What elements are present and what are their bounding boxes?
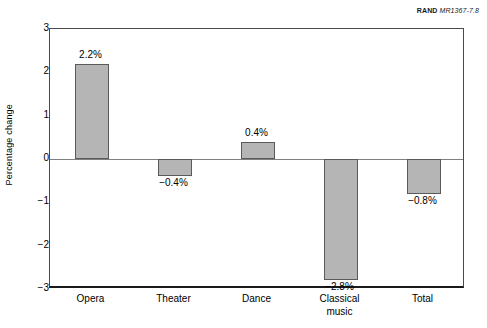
source-note-mark: RAND <box>417 7 438 14</box>
bar <box>407 159 441 194</box>
plot-area <box>49 28 464 288</box>
x-axis-category-line: Theater <box>136 292 212 305</box>
y-axis-tick-label: 3 <box>26 22 49 34</box>
y-axis-tick-label: −3 <box>26 282 49 294</box>
bar-value-label: −0.4% <box>144 177 204 189</box>
y-axis-tick-label: 1 <box>26 109 49 121</box>
x-axis-category-line: Opera <box>53 292 129 305</box>
y-axis-tick-label: 0 <box>26 152 49 164</box>
x-axis-category-label: Theater <box>136 292 212 305</box>
bar <box>75 64 109 159</box>
source-note-document: MR1367-7.8 <box>439 7 479 14</box>
x-axis-category-line: Classical <box>302 292 378 305</box>
x-axis-category-label: Classicalmusic <box>302 292 378 318</box>
x-axis-category-label: Opera <box>53 292 129 305</box>
x-axis-category-line: music <box>302 305 378 318</box>
bar-chart-figure: RANDMR1367-7.8 Percentage change 3210−1−… <box>0 0 487 328</box>
bar <box>158 159 192 176</box>
bar-value-label: −0.8% <box>393 195 453 207</box>
x-axis-category-label: Total <box>385 292 461 305</box>
y-axis-tick-label: −2 <box>26 239 49 251</box>
bar <box>241 142 275 159</box>
x-axis-category-line: Total <box>385 292 461 305</box>
y-axis-tick-label: −1 <box>26 195 49 207</box>
y-axis-tick-label: 2 <box>26 65 49 77</box>
zero-baseline <box>50 159 463 160</box>
bar-value-label: 2.2% <box>61 49 121 61</box>
x-axis-category-label: Dance <box>219 292 295 305</box>
y-axis-title: Percentage change <box>4 104 22 185</box>
x-axis-category-line: Dance <box>219 292 295 305</box>
source-note: RANDMR1367-7.8 <box>417 7 479 14</box>
bar <box>324 159 358 280</box>
bar-value-label: 0.4% <box>227 127 287 139</box>
